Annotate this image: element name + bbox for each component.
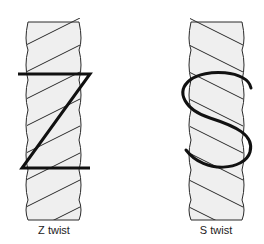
s-twist-rope: [189, 18, 244, 234]
z-twist-label: Z twist: [14, 224, 94, 236]
s-twist-label: S twist: [176, 224, 256, 236]
twist-diagram: [0, 0, 264, 244]
